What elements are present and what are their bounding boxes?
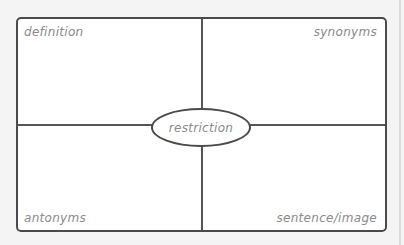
quadrant-label-sentence-image: sentence/image	[276, 211, 377, 225]
center-word-oval: restriction	[151, 108, 251, 147]
right-edge-divider	[399, 0, 401, 245]
quadrant-label-definition: definition	[24, 25, 83, 39]
center-word: restriction	[169, 121, 233, 135]
quadrant-label-synonyms: synonyms	[314, 25, 377, 39]
frayer-model-frame: definition synonyms antonyms sentence/im…	[16, 17, 387, 232]
quadrant-label-antonyms: antonyms	[24, 211, 86, 225]
